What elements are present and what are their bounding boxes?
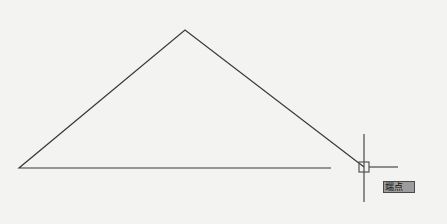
triangle-lines[interactable] <box>19 30 364 168</box>
snap-tooltip: 端点 <box>383 181 415 193</box>
drawing-canvas[interactable] <box>0 0 447 224</box>
snap-tooltip-label: 端点 <box>385 182 403 192</box>
